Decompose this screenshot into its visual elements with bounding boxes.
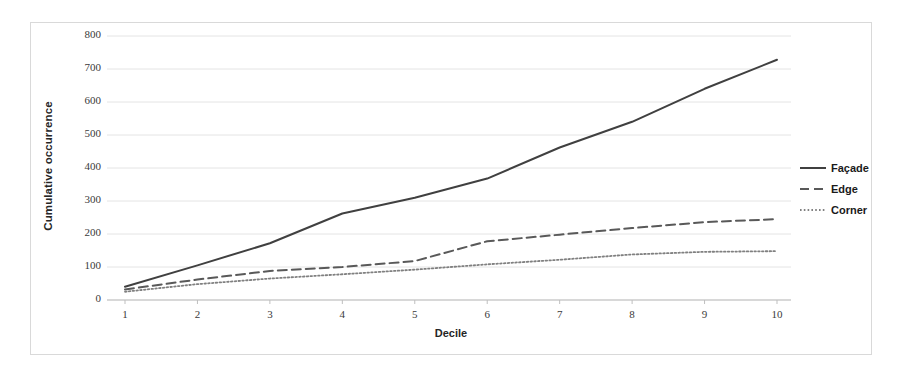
series-lines-group bbox=[125, 60, 777, 292]
x-axis-title: Decile bbox=[125, 327, 777, 339]
y-axis-tick-label: 800 bbox=[55, 28, 101, 40]
x-axis-tick-label: 9 bbox=[690, 308, 720, 320]
y-axis-title: Cumulative occurrence bbox=[42, 56, 54, 276]
y-axis-tick-label: 100 bbox=[55, 259, 101, 271]
legend-entry: Corner bbox=[800, 199, 890, 220]
y-axis-tick-label: 200 bbox=[55, 226, 101, 238]
legend-line-dotted-icon bbox=[800, 205, 826, 215]
plot-canvas bbox=[0, 0, 900, 378]
legend-line-dashed-icon bbox=[800, 184, 826, 194]
legend-label: Façade bbox=[831, 162, 869, 174]
y-axis-tick-label: 500 bbox=[55, 127, 101, 139]
x-axis-tick-label: 10 bbox=[762, 308, 792, 320]
y-axis-tick-label: 600 bbox=[55, 94, 101, 106]
gridlines-group bbox=[107, 36, 791, 300]
x-axis-tick-label: 6 bbox=[472, 308, 502, 320]
chart-figure: Cumulative occurrence Decile 01002003004… bbox=[0, 0, 900, 378]
x-axis-tick-label: 7 bbox=[545, 308, 575, 320]
axis-lines-group bbox=[107, 300, 791, 304]
y-axis-tick-label: 0 bbox=[55, 292, 101, 304]
series-line-edge bbox=[125, 219, 777, 289]
x-axis-tick-label: 2 bbox=[182, 308, 212, 320]
x-axis-tick-label: 8 bbox=[617, 308, 647, 320]
legend-label: Corner bbox=[831, 204, 867, 216]
y-axis-tick-label: 700 bbox=[55, 61, 101, 73]
legend-label: Edge bbox=[831, 183, 858, 195]
legend-entry: Façade bbox=[800, 157, 890, 178]
x-axis-tick-label: 4 bbox=[327, 308, 357, 320]
x-axis-tick-label: 3 bbox=[255, 308, 285, 320]
y-axis-tick-label: 400 bbox=[55, 160, 101, 172]
x-axis-tick-label: 5 bbox=[400, 308, 430, 320]
y-axis-tick-label: 300 bbox=[55, 193, 101, 205]
chart-legend: FaçadeEdgeCorner bbox=[800, 157, 890, 220]
x-axis-tick-label: 1 bbox=[110, 308, 140, 320]
legend-entry: Edge bbox=[800, 178, 890, 199]
legend-line-solid-icon bbox=[800, 163, 826, 173]
